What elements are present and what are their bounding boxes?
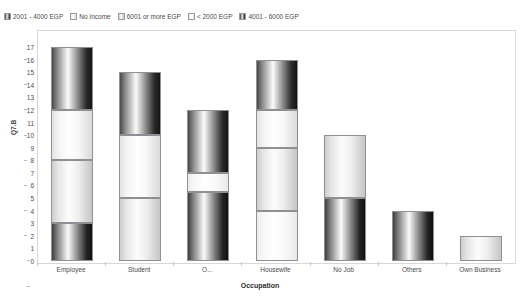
y-axis-tick-label: 8 <box>30 157 38 164</box>
plot-frame: 17161514131211109876543210 <box>37 30 516 264</box>
legend-swatch-icon <box>118 13 125 20</box>
x-axis-tick-mark <box>310 262 311 266</box>
legend-swatch-icon <box>188 13 195 20</box>
y-axis-tick-label: 15 <box>27 69 38 76</box>
x-axis-tick-label: O... <box>202 266 212 273</box>
y-axis-tick-mark <box>24 235 27 236</box>
bar-segment[interactable] <box>51 223 93 261</box>
y-axis-tick-label: 12 <box>27 106 38 113</box>
y-axis-tick-mark <box>24 185 27 186</box>
bar-column[interactable] <box>324 135 366 261</box>
y-axis-tick-label: 7 <box>30 169 38 176</box>
x-axis-tick-mark <box>105 262 106 266</box>
legend-item[interactable]: 6001 or more EGP <box>118 12 181 21</box>
legend-label: No Income <box>79 12 110 21</box>
bar-column[interactable] <box>119 72 161 261</box>
bar-segment[interactable] <box>51 110 93 160</box>
y-axis-tick-label: 6 <box>30 182 38 189</box>
y-axis-tick-label: 4 <box>30 207 38 214</box>
y-axis-tick-label: 17 <box>27 44 38 51</box>
legend-swatch-icon <box>4 13 11 20</box>
x-axis-tick-label: No Job <box>333 266 354 273</box>
y-axis-tick-label: 2 <box>30 232 38 239</box>
chart-legend: 2001 - 4000 EGPNo Income6001 or more EGP… <box>4 12 299 21</box>
y-axis-tick-label: 14 <box>27 81 38 88</box>
bar-segment[interactable] <box>256 60 298 110</box>
x-axis-tick-label: Student <box>128 266 150 273</box>
x-axis-tick-label: Housewife <box>260 266 290 273</box>
legend-label: 2001 - 4000 EGP <box>13 12 63 21</box>
y-axis-tick-label: 11 <box>27 119 38 126</box>
bar-segment[interactable] <box>460 236 502 261</box>
stacked-bar-chart: 2001 - 4000 EGPNo Income6001 or more EGP… <box>0 0 520 302</box>
x-axis-tick-label: Own Business <box>459 266 501 273</box>
y-axis-title: Q7.B <box>10 120 17 135</box>
x-axis-tick-mark <box>241 262 242 266</box>
bar-segment[interactable] <box>119 135 161 198</box>
bar-column[interactable] <box>187 110 229 261</box>
x-axis-tick-mark <box>378 262 379 266</box>
bar-segment[interactable] <box>51 160 93 223</box>
x-axis-title: Occupation <box>0 282 520 289</box>
legend-swatch-icon <box>239 13 246 20</box>
bar-segment[interactable] <box>324 135 366 198</box>
plot-area: 17161514131211109876543210 <box>38 31 515 263</box>
y-axis-tick-label: 9 <box>30 144 38 151</box>
x-axis-tick-mark <box>446 262 447 266</box>
y-axis-tick-label: 13 <box>27 94 38 101</box>
y-axis-tick-label: 16 <box>27 56 38 63</box>
y-axis-tick-mark <box>24 160 27 161</box>
legend-swatch-icon <box>70 13 77 20</box>
bar-segment[interactable] <box>392 211 434 261</box>
legend-item[interactable]: 4001 - 6000 EGP <box>239 12 298 21</box>
legend-label: 4001 - 6000 EGP <box>248 12 298 21</box>
legend-label: 6001 or more EGP <box>127 12 181 21</box>
bar-segment[interactable] <box>119 198 161 261</box>
x-axis-tick-label: Employee <box>57 266 86 273</box>
bar-segment[interactable] <box>187 173 229 192</box>
bar-segment[interactable] <box>256 211 298 261</box>
y-axis-tick-mark <box>24 210 27 211</box>
bar-segment[interactable] <box>187 110 229 173</box>
bar-segment[interactable] <box>256 110 298 148</box>
y-axis-tick-label: 5 <box>30 195 38 202</box>
x-axis-tick-mark <box>37 262 38 266</box>
y-axis-tick-label: 3 <box>30 220 38 227</box>
legend-item[interactable]: No Income <box>70 12 110 21</box>
bar-segment[interactable] <box>187 192 229 261</box>
legend-item[interactable]: 2001 - 4000 EGP <box>4 12 63 21</box>
y-axis-tick-label: 1 <box>30 245 38 252</box>
chart-title-cropped <box>0 0 520 9</box>
bar-segment[interactable] <box>256 148 298 211</box>
bar-column[interactable] <box>392 211 434 261</box>
legend-item[interactable]: < 2000 EGP <box>188 12 233 21</box>
y-axis-tick-label: 10 <box>27 132 38 139</box>
x-axis-tick-label: Others <box>402 266 422 273</box>
bar-segment[interactable] <box>119 72 161 135</box>
x-axis-tick-mark <box>173 262 174 266</box>
bar-segment[interactable] <box>324 198 366 261</box>
bar-column[interactable] <box>51 47 93 261</box>
bar-segment[interactable] <box>51 47 93 110</box>
bar-column[interactable] <box>460 236 502 261</box>
legend-label: < 2000 EGP <box>197 12 233 21</box>
bar-column[interactable] <box>256 60 298 261</box>
